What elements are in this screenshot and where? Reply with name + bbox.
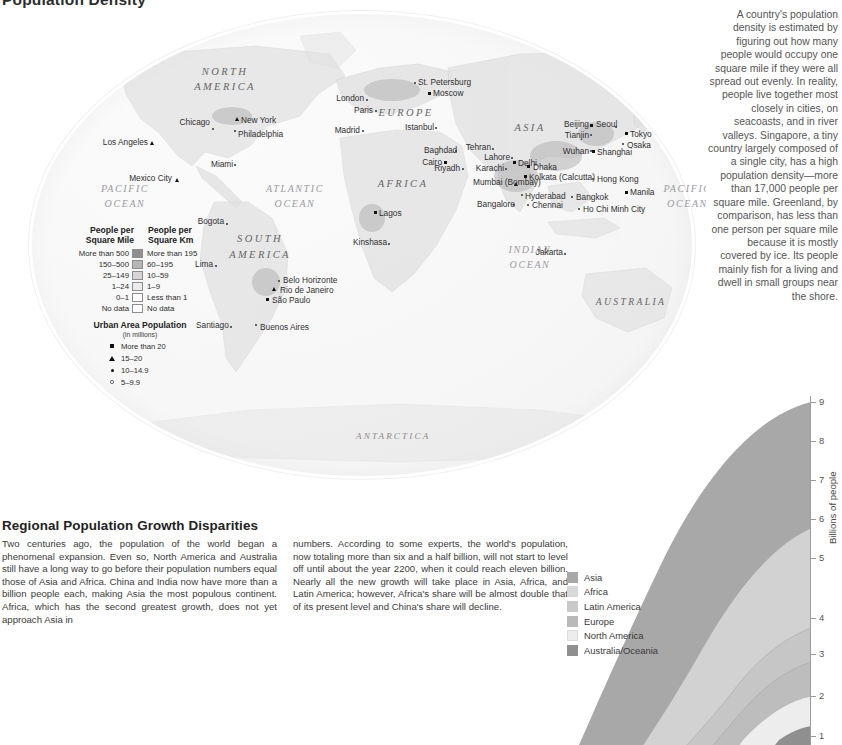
city-marker xyxy=(175,178,179,182)
ocean-label-atlantic: ATLANTIC OCEAN xyxy=(255,181,335,211)
city-label-sao-paulo: São Paulo xyxy=(272,296,310,305)
city-marker xyxy=(226,223,228,225)
legend-headers: People per Square Mile People per Square… xyxy=(76,226,204,245)
chart-y-tick-label: 2 xyxy=(819,691,824,700)
continent-label-africa: AFRICA xyxy=(368,178,438,189)
city-label-dhaka: Dhaka xyxy=(533,163,557,172)
chart-legend-item[interactable]: Australia/Oceania xyxy=(567,643,707,658)
city-label-seoul: Seoul xyxy=(596,120,617,129)
city-label-madrid: Madrid xyxy=(331,126,360,135)
chart-legend-label: Europe xyxy=(584,616,614,627)
chart-y-tick-label: 8 xyxy=(819,436,824,445)
city-label-chicago: Chicago xyxy=(168,118,210,127)
chart-y-tick xyxy=(810,558,816,559)
continent-label-australia: AUSTRALIA xyxy=(586,296,676,307)
urban-legend-item: 15–20 xyxy=(76,352,204,364)
legend-color-swatch xyxy=(567,586,578,597)
city-marker xyxy=(230,326,232,328)
city-marker xyxy=(234,130,236,132)
legend-row: 1–24 1–9 xyxy=(76,281,204,292)
city-marker xyxy=(527,165,530,168)
chart-y-tick xyxy=(810,402,816,403)
continent-label-europe: EUROPE xyxy=(371,107,441,118)
continent-label-antarctica: ANTARCTICA xyxy=(356,431,430,441)
legend-row: 0–1 Less than 1 xyxy=(76,292,204,303)
legend-header-km: People per Square Km xyxy=(134,226,204,245)
city-label-moscow: Moscow xyxy=(433,89,463,98)
city-marker xyxy=(255,324,257,326)
city-marker xyxy=(505,168,507,170)
chart-y-tick xyxy=(810,480,816,481)
chart-y-tick xyxy=(810,696,816,697)
city-marker xyxy=(374,211,377,214)
city-label-osaka: Osaka xyxy=(627,141,651,150)
chart-legend-label: Australia/Oceania xyxy=(584,645,658,656)
city-label-mumbai: Mumbai (Bombay) xyxy=(473,178,513,187)
chart-legend-item[interactable]: Latin America xyxy=(567,599,707,614)
city-label-buenos-aires: Buenos Aires xyxy=(260,323,309,332)
city-label-philadelphia: Philadelphia xyxy=(238,130,283,139)
city-marker xyxy=(571,196,573,198)
city-marker xyxy=(625,132,628,135)
chart-y-tick-label: 3 xyxy=(819,649,824,658)
city-marker xyxy=(592,178,594,180)
city-marker xyxy=(524,175,527,178)
city-marker xyxy=(215,265,217,267)
city-marker xyxy=(511,157,513,159)
chart-legend-label: Asia xyxy=(584,572,602,583)
city-label-lagos: Lagos xyxy=(379,209,402,218)
page-root: Population Density xyxy=(0,0,842,745)
chart-y-tick xyxy=(810,519,816,520)
chart-legend-item[interactable]: Asia xyxy=(567,570,707,585)
city-marker xyxy=(513,161,516,164)
city-label-kolkata: Kolkata (Calcutta) xyxy=(529,173,595,182)
legend-swatch xyxy=(132,282,143,291)
urban-legend-items: More than 20 15–20 10–14.9 5–9.9 xyxy=(76,340,204,388)
triangle-marker-icon xyxy=(106,356,118,361)
chart-legend-label: Africa xyxy=(584,586,608,597)
article-regional-growth: Regional Population Growth Disparities T… xyxy=(2,518,568,626)
continent-label-asia: ASIA xyxy=(500,122,560,133)
city-marker xyxy=(212,128,214,130)
city-label-karachi: Karachi xyxy=(475,164,504,173)
chart-y-axis-label: Billions of people xyxy=(827,471,838,544)
legend-row: 150–500 60–195 xyxy=(76,259,204,270)
city-marker xyxy=(362,130,364,132)
city-marker xyxy=(235,117,239,121)
city-marker xyxy=(375,110,377,112)
urban-legend-subtitle: (in millions) xyxy=(76,331,204,338)
city-marker xyxy=(266,298,269,301)
city-marker xyxy=(521,194,523,196)
chart-legend-item[interactable]: Europe xyxy=(567,614,707,629)
city-label-istanbul: Istanbul xyxy=(404,123,434,132)
city-label-rio-de-janeiro: Rio de Janeiro xyxy=(280,286,334,295)
city-label-riyadh: Riyadh xyxy=(433,164,460,173)
city-label-kinshasa: Kinshasa xyxy=(353,238,387,247)
legend-rows: More than 500 More than 195 150–500 60–1… xyxy=(76,248,204,314)
city-label-wuhan: Wuhan xyxy=(562,147,589,156)
city-marker xyxy=(388,243,390,245)
chart-y-tick-label: 6 xyxy=(819,514,824,523)
city-label-belo-horizonte: Belo Horizonte xyxy=(283,276,337,285)
legend-color-swatch xyxy=(567,630,578,641)
chart-y-tick-label: 5 xyxy=(819,553,824,562)
chart-legend-item[interactable]: Africa xyxy=(567,585,707,600)
continent-label-north-america: NORTH AMERICA xyxy=(160,64,290,94)
legend-color-swatch xyxy=(567,601,578,612)
chart-y-tick-label: 9 xyxy=(819,397,824,406)
city-label-bangkok: Bangkok xyxy=(576,193,608,202)
city-label-tianjin: Tianjin xyxy=(562,131,589,140)
city-label-tehran: Tehran xyxy=(463,143,491,152)
chart-y-tick-label: 1 xyxy=(819,731,824,740)
chart-y-tick-label: 4 xyxy=(819,613,824,622)
chart-legend-item[interactable]: North America xyxy=(567,628,707,643)
city-marker xyxy=(414,82,416,84)
city-label-bangalore: Bangalore xyxy=(477,200,512,209)
chart-y-axis xyxy=(810,396,811,745)
legend-header-mile: People per Square Mile xyxy=(76,226,134,245)
city-label-paris: Paris xyxy=(351,106,373,115)
city-marker xyxy=(590,124,593,127)
city-label-chennai: Chennai xyxy=(532,201,563,210)
urban-legend-item: 5–9.9 xyxy=(76,376,204,388)
legend-color-swatch xyxy=(567,645,578,656)
